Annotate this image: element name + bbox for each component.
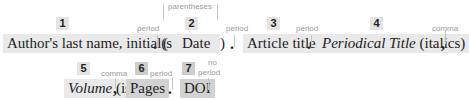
separator-tick-7 — [208, 78, 209, 90]
element-number-7: 7 — [182, 62, 195, 75]
element-number-2: 2 — [185, 17, 198, 30]
parentheses-tick-left — [163, 4, 164, 20]
element-number-5: 5 — [77, 62, 90, 75]
doi-box: DOI — [180, 79, 215, 98]
period-label-1: period — [137, 24, 159, 33]
volume-italic: Volume — [68, 80, 112, 96]
comma-label-5: comma — [101, 69, 127, 78]
separator-tick-6 — [172, 78, 173, 90]
period-label-3: period — [296, 24, 318, 33]
date-box: Date — [172, 34, 220, 53]
periodical-title-box: Periodical Title (italics) — [318, 34, 469, 53]
comma-4: , — [441, 34, 445, 53]
separator-tick-1 — [157, 35, 158, 47]
period-3: . — [307, 34, 311, 53]
period-6: . — [168, 79, 172, 98]
element-number-1: 1 — [56, 17, 69, 30]
no-period-label-line1: no — [208, 58, 217, 67]
element-number-3: 3 — [267, 17, 280, 30]
period-label-6: period — [150, 69, 172, 78]
separator-tick-4 — [445, 30, 446, 44]
separator-tick-3 — [311, 35, 312, 47]
parentheses-tick-right — [217, 4, 218, 20]
pages-box: Pages — [126, 79, 169, 98]
open-paren: ( — [163, 34, 168, 53]
comma-5: , — [113, 79, 117, 98]
close-paren: ) — [220, 34, 225, 53]
period-2: . — [230, 34, 234, 53]
parentheses-label: parentheses — [168, 2, 212, 11]
period-label-2: period — [226, 24, 248, 33]
element-number-6: 6 — [135, 62, 148, 75]
periodical-title-italic: Periodical Title — [322, 35, 416, 51]
separator-tick-2 — [234, 35, 235, 47]
period-1: . — [153, 34, 157, 53]
element-number-4: 4 — [370, 17, 383, 30]
no-period-label-line2: period — [198, 68, 220, 77]
